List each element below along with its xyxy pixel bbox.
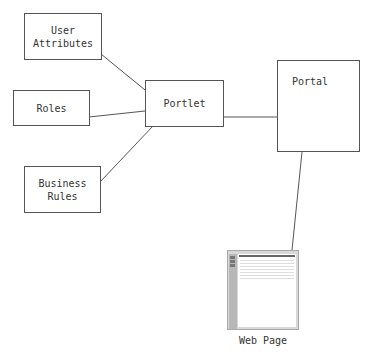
- node-portlet: Portlet: [145, 80, 224, 127]
- node-business-rules-line1: Business: [38, 177, 86, 190]
- node-business-rules-line2: Rules: [47, 190, 77, 203]
- node-portal-label: Portal: [292, 75, 328, 88]
- web-page-text-line: [240, 278, 294, 279]
- web-page-icon: [227, 250, 299, 330]
- web-page-text-line: [240, 275, 294, 276]
- web-page-sidebar-block: [230, 260, 235, 263]
- web-page-sidebar-block: [230, 256, 235, 259]
- node-user-attributes-line1: User: [51, 24, 75, 37]
- web-page-text-line: [240, 263, 294, 264]
- edge-roles-portlet: [89, 111, 145, 117]
- web-page-text-line: [240, 266, 294, 267]
- web-page-text-line: [240, 272, 294, 273]
- node-user-attributes: User Attributes: [24, 13, 102, 60]
- node-user-attributes-line2: Attributes: [33, 37, 93, 50]
- web-page-sidebar: [229, 254, 237, 329]
- web-page-text-line: [240, 269, 294, 270]
- node-roles: Roles: [13, 90, 90, 126]
- node-portal: Portal: [277, 60, 360, 152]
- edge-user-attributes-portlet: [101, 54, 145, 90]
- node-roles-label: Roles: [36, 102, 66, 115]
- web-page-content: [238, 254, 296, 327]
- edge-business-rules-portlet: [100, 126, 153, 182]
- web-page-sidebar-block: [230, 264, 235, 267]
- node-portlet-label: Portlet: [163, 97, 205, 110]
- web-page-text-line: [240, 260, 294, 261]
- diagram-canvas: User Attributes Roles Business Rules Por…: [0, 0, 371, 362]
- web-page-header-bar: [239, 255, 295, 257]
- node-web-page-label: Web Page: [227, 335, 299, 346]
- node-business-rules: Business Rules: [24, 166, 101, 213]
- edge-portal-web-page: [292, 152, 302, 250]
